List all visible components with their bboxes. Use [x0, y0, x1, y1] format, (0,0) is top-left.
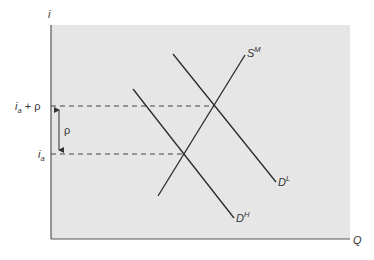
- y-axis-label: i: [48, 8, 51, 20]
- premium-gap-label: ρ: [64, 124, 70, 136]
- upper-rate-label: ia + ρ: [15, 100, 40, 115]
- lower-rate-label: ia: [38, 148, 45, 163]
- diagram-canvas: i Q ρ ia + ρ ia SM DL DH: [0, 0, 374, 260]
- x-axis-label: Q: [353, 234, 362, 246]
- plot-area: [51, 25, 350, 239]
- demand-low-label-base: D: [278, 176, 286, 188]
- demand-low-label-sup: L: [286, 174, 290, 183]
- supply-label-sup: M: [254, 45, 261, 54]
- lower-rate-sub: a: [40, 154, 44, 163]
- demand-high-label-sup: H: [244, 210, 250, 219]
- demand-high-label-base: D: [236, 212, 244, 224]
- upper-rate-suffix: + ρ: [22, 100, 41, 112]
